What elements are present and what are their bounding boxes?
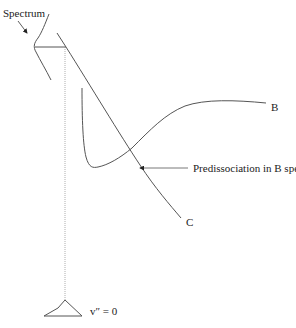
spectrum-label: Spectrum <box>3 7 46 19</box>
predissociation-label: Predissociation in B spectrum <box>193 162 296 174</box>
potential-energy-diagram: Spectrum C B Predissociation in B spectr… <box>0 0 296 328</box>
ground-state-wavefunction <box>44 300 82 316</box>
curve-b-label: B <box>271 101 278 113</box>
curve-b-bound <box>82 88 266 167</box>
ground-level-label: v″ = 0 <box>90 305 118 317</box>
curve-c-repulsive <box>57 33 181 218</box>
spectrum-arrow-icon <box>18 21 27 33</box>
curve-c-label: C <box>186 216 193 228</box>
